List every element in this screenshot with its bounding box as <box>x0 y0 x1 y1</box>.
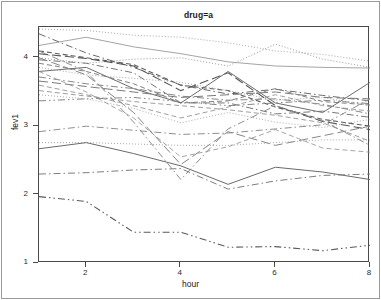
chart-figure: drug=a fev1 hour 1234 2468 <box>0 0 381 300</box>
panel-strip-label: drug=a <box>184 11 213 20</box>
x-axis-title: hour <box>0 279 381 289</box>
y-tick-label: 3 <box>14 120 28 129</box>
series-line <box>39 143 370 185</box>
series-line <box>39 99 370 135</box>
series-line <box>39 29 370 61</box>
y-tick-label: 1 <box>14 257 28 266</box>
panel-strip: drug=a <box>28 8 369 23</box>
series-line <box>39 197 370 251</box>
y-tick-label: 2 <box>14 189 28 198</box>
plot-lines-svg <box>39 27 370 263</box>
y-tick-label: 4 <box>14 52 28 61</box>
series-line <box>39 140 370 145</box>
x-tick-label: 6 <box>264 268 284 277</box>
x-tick-label: 4 <box>170 268 190 277</box>
series-line <box>39 51 370 180</box>
series-line <box>39 51 370 126</box>
x-tick-label: 2 <box>75 268 95 277</box>
x-tick-label: 8 <box>359 268 379 277</box>
plot-panel <box>38 26 369 262</box>
